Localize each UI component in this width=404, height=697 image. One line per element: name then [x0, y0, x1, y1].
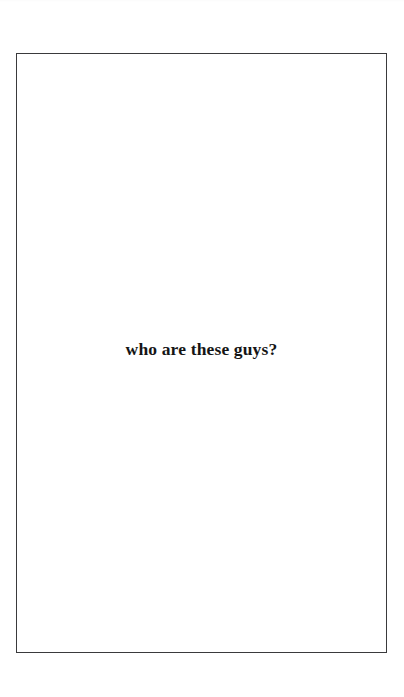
scanned-page-canvas: who are these guys?	[0, 0, 404, 697]
page-content-area: who are these guys?	[17, 54, 386, 652]
page-title: who are these guys?	[126, 339, 278, 359]
section-title-block: who are these guys?	[17, 339, 386, 359]
scan-edge-shading	[0, 0, 404, 2]
printed-rule-box: who are these guys?	[16, 53, 387, 653]
